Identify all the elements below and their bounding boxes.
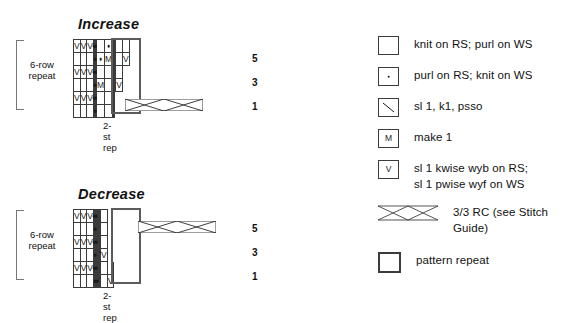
chart-cell-empty bbox=[114, 262, 115, 275]
slip-stitch-symbol-icon: V bbox=[378, 160, 399, 179]
chart-row: MV bbox=[74, 79, 130, 92]
legend-text-pattern-repeat: pattern repeat bbox=[416, 252, 489, 269]
chart-cell-empty bbox=[122, 66, 129, 79]
decrease-row-repeat-label-line1: 6-row bbox=[30, 229, 54, 240]
chart-cell-knit bbox=[74, 105, 81, 118]
chart-cell-slip: V bbox=[74, 40, 81, 53]
chart-cell-knit bbox=[105, 79, 113, 92]
chart-cell-knit bbox=[80, 223, 87, 236]
chart-cell-slip: V bbox=[74, 210, 81, 223]
chart-cell-knit bbox=[116, 53, 123, 66]
chart-row bbox=[74, 223, 115, 236]
chart-cell-knit bbox=[97, 105, 105, 118]
chart-cell-empty bbox=[114, 249, 115, 262]
chart-row: V bbox=[74, 275, 115, 288]
increase-cable-3-3-rc bbox=[125, 99, 203, 111]
chart-cell-empty bbox=[107, 249, 114, 262]
increase-row-number-5: 5 bbox=[252, 53, 258, 64]
legend-line: 3/3 RC (see Stitch Guide) bbox=[453, 205, 574, 236]
purl-symbol-icon bbox=[378, 67, 399, 86]
chart-cell-knit bbox=[122, 40, 129, 53]
chart-row: MV bbox=[74, 53, 130, 66]
chart-cell-empty bbox=[107, 223, 114, 236]
decrease-row-number-3: 3 bbox=[252, 247, 258, 258]
chart-cell-knit bbox=[87, 53, 94, 66]
chart-cell-empty bbox=[116, 105, 123, 118]
chart-cell-knit bbox=[74, 249, 81, 262]
chart-cell-knit bbox=[74, 223, 81, 236]
chart-cell-make-one: M bbox=[97, 79, 105, 92]
chart-cell-knit bbox=[74, 79, 81, 92]
chart-row: VVV bbox=[74, 262, 115, 275]
chart-cell-knit bbox=[80, 79, 87, 92]
chart-cell-knit bbox=[74, 53, 81, 66]
chart-cell-slip: V bbox=[116, 79, 123, 92]
chart-cell-slip: V bbox=[74, 92, 81, 105]
chart-cell-slip: V bbox=[80, 92, 87, 105]
legend-text-cable: 3/3 RC (see Stitch Guide) bbox=[453, 204, 574, 236]
increase-grid-table: VVVMVVVVMVVVV bbox=[73, 39, 130, 118]
legend: knit on RS; purl on WS purl on RS; knit … bbox=[378, 36, 574, 285]
chart-cell-slip: V bbox=[80, 262, 87, 275]
chart-cell-slip: V bbox=[107, 275, 114, 288]
chart-cell-knit bbox=[97, 66, 105, 79]
chart-row: V bbox=[74, 249, 115, 262]
chart-cell-knit bbox=[87, 275, 94, 288]
chart-row: VVV bbox=[74, 66, 130, 79]
legend-item-purl: purl on RS; knit on WS bbox=[378, 67, 574, 86]
legend-line: knit on RS; purl on WS bbox=[414, 37, 533, 53]
legend-line: purl on RS; knit on WS bbox=[414, 68, 533, 84]
chart-cell-slip: V bbox=[101, 249, 108, 262]
chart-row: VVV bbox=[74, 40, 130, 53]
chart-cell-knit bbox=[105, 66, 113, 79]
chart-cell-knit bbox=[74, 275, 81, 288]
decrease-row-repeat-label-line2: repeat bbox=[29, 240, 56, 251]
legend-text-make-one: make 1 bbox=[414, 129, 452, 146]
chart-cell-slip: V bbox=[80, 210, 87, 223]
chart-cell-slip: V bbox=[74, 262, 81, 275]
chart-cell-knit bbox=[101, 210, 108, 223]
chart-cell-knit bbox=[116, 40, 123, 53]
chart-cell-knit bbox=[101, 223, 108, 236]
psso-symbol-icon bbox=[378, 98, 399, 117]
legend-line: make 1 bbox=[414, 130, 452, 146]
decrease-pattern-repeat-box bbox=[111, 208, 141, 284]
chart-cell-knit bbox=[87, 223, 94, 236]
legend-item-pattern-repeat: pattern repeat bbox=[378, 252, 574, 273]
legend-item-cable: 3/3 RC (see Stitch Guide) bbox=[378, 204, 574, 236]
cable-3-3-rc-symbol-icon bbox=[378, 204, 438, 222]
chart-cell-knit bbox=[87, 249, 94, 262]
legend-text-purl: purl on RS; knit on WS bbox=[414, 67, 533, 84]
chart-cell-knit bbox=[116, 66, 123, 79]
legend-text-slip-stitch: sl 1 kwise wyb on RS; sl 1 pwise wyf on … bbox=[414, 160, 528, 192]
chart-cell-empty bbox=[114, 210, 115, 223]
chart-row: VVV bbox=[74, 210, 115, 223]
chart-cell-purl bbox=[97, 53, 105, 66]
chart-cell-knit bbox=[80, 105, 87, 118]
chart-cell-empty bbox=[107, 210, 114, 223]
decrease-row-number-5: 5 bbox=[252, 223, 258, 234]
increase-chart-title: Increase bbox=[78, 16, 139, 32]
chart-cell-slip: V bbox=[122, 53, 129, 66]
increase-stitch-repeat-label: 2-st rep bbox=[103, 120, 117, 153]
increase-row-number-1: 1 bbox=[252, 101, 258, 112]
chart-cell-empty bbox=[114, 275, 115, 288]
chart-cell-make-one: M bbox=[105, 53, 113, 66]
chart-cell-slip: V bbox=[80, 40, 87, 53]
chart-cell-knit bbox=[105, 105, 113, 118]
pattern-repeat-symbol-icon bbox=[378, 252, 401, 273]
chart-cell-knit bbox=[105, 92, 113, 105]
chart-cell-knit bbox=[107, 262, 114, 275]
chart-cell-slip: V bbox=[74, 236, 81, 249]
chart-cell-knit bbox=[87, 105, 94, 118]
decrease-row-repeat-label: 6-row repeat bbox=[18, 230, 66, 252]
chart-cell-empty bbox=[116, 92, 123, 105]
legend-line: sl 1 kwise wyb on RS; bbox=[414, 161, 528, 177]
chart-cell-empty bbox=[107, 236, 114, 249]
legend-line: pattern repeat bbox=[416, 253, 489, 269]
chart-row: VVV bbox=[74, 92, 130, 105]
decrease-row-number-1: 1 bbox=[252, 271, 258, 282]
chart-cell-slip: V bbox=[80, 66, 87, 79]
increase-row-repeat-label: 6-row repeat bbox=[18, 60, 66, 82]
increase-row-repeat-label-line2: repeat bbox=[29, 70, 56, 81]
